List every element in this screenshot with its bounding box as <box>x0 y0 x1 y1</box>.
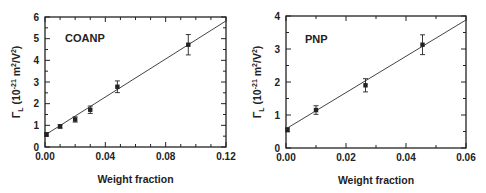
y-tick-label: 4 <box>33 55 39 66</box>
x-tick-label: 0.02 <box>336 152 356 163</box>
data-point <box>88 108 92 112</box>
y-tick-label: 5 <box>33 33 39 44</box>
data-point <box>73 117 77 121</box>
panel-label: PNP <box>305 33 328 45</box>
y-axis-title: ΓL (10-21 m2/V2) <box>251 46 265 119</box>
x-tick-label: 0.04 <box>96 151 116 162</box>
data-point <box>58 124 62 128</box>
x-tick-label: 0.06 <box>456 152 476 163</box>
y-tick-label: 0 <box>274 143 280 154</box>
y-tick-label: 2 <box>274 77 280 88</box>
x-tick-label: 0.08 <box>156 151 176 162</box>
x-tick-label: 0.04 <box>396 152 416 163</box>
data-point <box>115 85 119 89</box>
y-axis-title: ΓL (10-21 m2/V2) <box>10 46 24 119</box>
data-point <box>186 43 190 47</box>
panel-label: COANP <box>65 32 105 44</box>
y-tick-label: 2 <box>33 98 39 109</box>
data-point <box>44 132 48 136</box>
y-tick-label: 1 <box>33 120 39 131</box>
data-point <box>363 83 367 87</box>
x-axis-title: Weight fraction <box>338 174 414 186</box>
data-point <box>420 43 424 47</box>
chart-coanp: 0.000.040.080.120123456Weight fractionΓL… <box>10 12 236 186</box>
y-tick-label: 3 <box>274 44 280 55</box>
x-tick-label: 0.00 <box>276 152 296 163</box>
x-axis-title: Weight fraction <box>97 173 173 185</box>
x-tick-label: 0.00 <box>35 151 55 162</box>
data-point <box>314 108 318 112</box>
x-tick-label: 0.12 <box>216 151 236 162</box>
y-tick-label: 4 <box>274 11 280 22</box>
figure: 0.000.040.080.120123456Weight fractionΓL… <box>0 0 486 193</box>
y-tick-label: 6 <box>33 12 39 23</box>
y-tick-label: 1 <box>274 110 280 121</box>
data-point <box>285 128 289 132</box>
y-tick-label: 0 <box>33 142 39 153</box>
chart-pnp: 0.000.020.040.0601234Weight fractionΓL (… <box>251 11 476 187</box>
y-tick-label: 3 <box>33 77 39 88</box>
